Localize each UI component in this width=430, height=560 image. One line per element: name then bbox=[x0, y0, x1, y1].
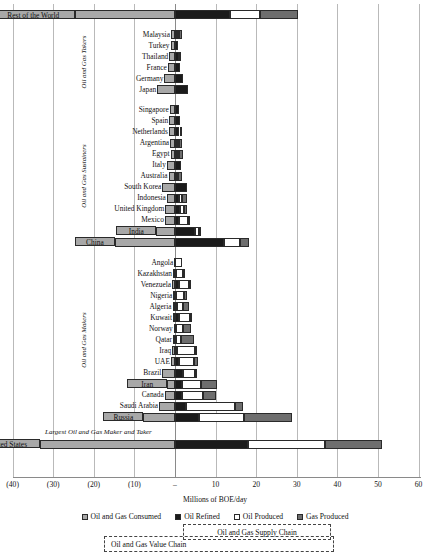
legend-item: Oil Refined bbox=[175, 512, 220, 521]
category-label: Spain bbox=[0, 116, 168, 125]
segment-oil-produced bbox=[175, 258, 181, 267]
segment-oil-refined bbox=[175, 41, 178, 50]
segment-oil-refined bbox=[175, 127, 179, 136]
segment-oil-produced bbox=[179, 52, 181, 61]
segment-oil-produced bbox=[179, 357, 194, 366]
bar-row bbox=[0, 380, 430, 389]
segment-oil-refined bbox=[175, 391, 182, 400]
segment-oil-and-gas-consumed bbox=[167, 161, 175, 170]
x-tick-label: (40) bbox=[0, 480, 33, 489]
segment-gas-produced bbox=[201, 380, 217, 389]
value-chain-label: Oil and Gas Value Chain bbox=[111, 540, 186, 549]
legend-label: Gas Produced bbox=[306, 512, 348, 521]
segment-gas-produced bbox=[180, 127, 182, 136]
segment-gas-produced bbox=[244, 413, 292, 422]
category-label: Canada bbox=[0, 390, 164, 399]
segment-oil-produced bbox=[177, 346, 195, 355]
category-label: Iran bbox=[127, 379, 167, 388]
oil-gas-flows-chart: Rest of the WorldMalaysiaTurkeyThailandF… bbox=[0, 0, 430, 560]
category-label: Angola bbox=[0, 258, 173, 267]
legend-swatch-icon bbox=[297, 514, 303, 520]
segment-gas-produced bbox=[203, 391, 215, 400]
legend-swatch-icon bbox=[175, 514, 181, 520]
segment-gas-produced bbox=[194, 357, 198, 366]
segment-oil-and-gas-consumed bbox=[162, 183, 175, 192]
segment-gas-produced bbox=[235, 402, 243, 411]
segment-oil-refined bbox=[175, 116, 180, 125]
segment-oil-and-gas-consumed bbox=[164, 74, 175, 83]
legend-swatch-icon bbox=[82, 514, 88, 520]
category-label: Kazakhstan bbox=[0, 269, 172, 278]
segment-gas-produced bbox=[195, 346, 197, 355]
segment-oil-and-gas-consumed bbox=[167, 380, 175, 389]
segment-gas-produced bbox=[195, 369, 197, 378]
segment-oil-and-gas-consumed bbox=[159, 402, 175, 411]
x-axis-line bbox=[13, 477, 421, 478]
segment-oil-refined bbox=[175, 440, 248, 449]
legend-label: Oil Produced bbox=[243, 512, 283, 521]
category-label: Russia bbox=[103, 412, 143, 421]
segment-oil-refined bbox=[175, 161, 181, 170]
x-tick-label: – bbox=[155, 480, 195, 489]
segment-gas-produced bbox=[188, 216, 190, 225]
segment-oil-produced bbox=[199, 413, 245, 422]
group-label-sustainers: Oil and Gas Sustainers bbox=[80, 145, 87, 208]
x-tick-label: (10) bbox=[114, 480, 154, 489]
x-tick-label: (30) bbox=[33, 480, 73, 489]
segment-gas-produced bbox=[179, 139, 181, 148]
segment-oil-refined bbox=[175, 402, 186, 411]
segment-oil-refined bbox=[175, 183, 187, 192]
legend-item: Gas Produced bbox=[297, 512, 348, 521]
legend-item: Oil Produced bbox=[234, 512, 283, 521]
category-label: Singapore bbox=[0, 105, 169, 114]
category-label: Nigeria bbox=[0, 291, 172, 300]
segment-oil-and-gas-consumed bbox=[115, 238, 175, 247]
segment-oil-produced bbox=[176, 269, 183, 278]
x-tick-label: 40 bbox=[317, 480, 357, 489]
segment-oil-and-gas-consumed bbox=[167, 194, 175, 203]
segment-oil-produced bbox=[186, 402, 236, 411]
category-label: Netherlands bbox=[0, 127, 168, 136]
x-axis-title: Millions of BOE/day bbox=[0, 495, 430, 504]
legend-label: Oil and Gas Consumed bbox=[91, 512, 162, 521]
segment-oil-produced bbox=[224, 238, 240, 247]
segment-gas-produced bbox=[179, 30, 183, 39]
segment-oil-refined bbox=[175, 413, 199, 422]
segment-oil-and-gas-consumed bbox=[40, 440, 175, 449]
segment-gas-produced bbox=[179, 150, 182, 159]
bar-row bbox=[0, 238, 430, 247]
legend-swatch-icon bbox=[234, 514, 240, 520]
segment-oil-refined bbox=[175, 238, 224, 247]
segment-oil-and-gas-consumed bbox=[165, 205, 175, 214]
group-label-makers: Oil and Gas Makers bbox=[80, 312, 87, 367]
category-label: Brazil bbox=[0, 368, 161, 377]
segment-oil-produced bbox=[176, 324, 182, 333]
largest-maker-taker-note: Largest Oil and Gas Maker and Taker bbox=[45, 428, 152, 436]
category-label: Mexico bbox=[0, 215, 164, 224]
category-label: India bbox=[116, 226, 156, 235]
segment-oil-refined bbox=[175, 10, 230, 19]
segment-oil-and-gas-consumed bbox=[156, 227, 175, 236]
segment-oil-produced bbox=[182, 391, 203, 400]
category-label: China bbox=[75, 237, 115, 246]
segment-oil-and-gas-consumed bbox=[169, 172, 175, 181]
chart-legend: Oil and Gas ConsumedOil RefinedOil Produ… bbox=[0, 512, 430, 521]
category-label: Venezuela bbox=[0, 280, 171, 289]
segment-gas-produced bbox=[240, 238, 249, 247]
segment-oil-refined bbox=[175, 380, 182, 389]
segment-oil-refined bbox=[175, 369, 183, 378]
category-label: Saudi Arabia bbox=[0, 401, 158, 410]
group-label-takers: Oil and Gas Takers bbox=[80, 36, 87, 89]
segment-oil-produced bbox=[182, 380, 201, 389]
segment-gas-produced bbox=[189, 280, 191, 289]
segment-oil-and-gas-consumed bbox=[168, 63, 175, 72]
segment-oil-refined bbox=[175, 85, 188, 94]
x-tick-label: 30 bbox=[277, 480, 317, 489]
segment-gas-produced bbox=[260, 10, 298, 19]
legend-item: Oil and Gas Consumed bbox=[82, 512, 162, 521]
segment-gas-produced bbox=[181, 335, 194, 344]
category-label: Japan bbox=[0, 85, 156, 94]
segment-oil-produced bbox=[248, 440, 325, 449]
bar-row bbox=[0, 440, 430, 449]
segment-oil-produced bbox=[179, 280, 188, 289]
